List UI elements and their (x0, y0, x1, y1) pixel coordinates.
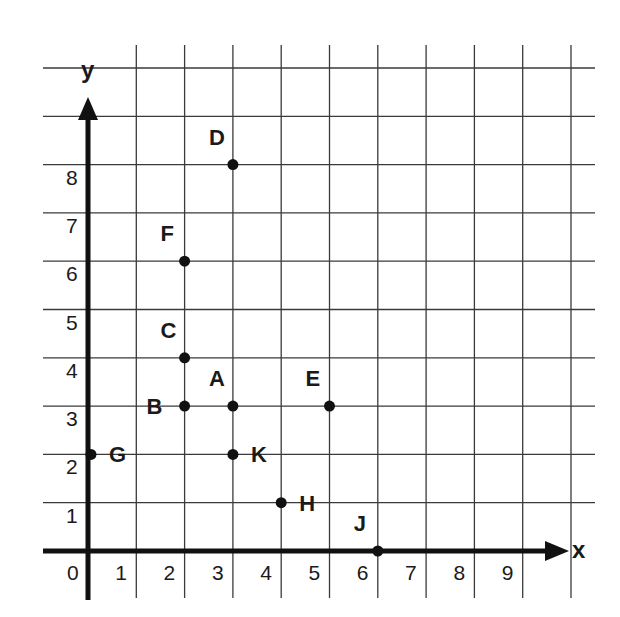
plotted-points: ABCDEFGHJK (86, 125, 384, 557)
y-tick-label: 4 (66, 359, 78, 382)
x-axis-arrow-icon (545, 541, 569, 561)
point-e-marker (324, 401, 335, 412)
grid-lines (43, 45, 595, 598)
x-tick-label: 1 (115, 561, 127, 584)
x-tick-label: 4 (260, 561, 272, 584)
point-f-label: F (161, 221, 174, 246)
point-g-marker (86, 449, 97, 460)
point-f-marker (179, 256, 190, 267)
y-tick-label: 6 (66, 262, 78, 285)
tick-labels: 012345678912345678 (66, 166, 513, 584)
x-tick-label: 5 (309, 561, 321, 584)
point-e-label: E (306, 366, 321, 391)
y-axis-label: y (81, 56, 95, 83)
point-h-label: H (299, 491, 315, 516)
point-a-marker (227, 401, 238, 412)
point-c-marker (179, 352, 190, 363)
x-tick-label: 3 (212, 561, 224, 584)
point-j-label: J (354, 511, 366, 536)
x-tick-label: 8 (453, 561, 465, 584)
point-b-label: B (147, 394, 163, 419)
y-axis-arrow-icon (78, 97, 98, 120)
x-tick-label: 9 (502, 561, 514, 584)
point-k-label: K (251, 442, 267, 467)
x-axis-label: x (572, 536, 586, 563)
y-tick-label: 7 (66, 214, 78, 237)
y-tick-label: 3 (66, 407, 78, 430)
y-tick-label: 1 (66, 504, 78, 527)
point-j-marker (372, 546, 383, 557)
point-d-label: D (209, 125, 225, 150)
y-tick-label: 5 (66, 311, 78, 334)
x-tick-label: 0 (67, 561, 79, 584)
point-h-marker (276, 497, 287, 508)
coordinate-grid: xy 012345678912345678 ABCDEFGHJK (0, 0, 620, 617)
point-b-marker (179, 401, 190, 412)
x-tick-label: 7 (405, 561, 417, 584)
y-tick-label: 8 (66, 166, 78, 189)
axes: xy (43, 56, 586, 600)
point-g-label: G (109, 442, 126, 467)
point-a-label: A (209, 366, 225, 391)
x-tick-label: 6 (357, 561, 369, 584)
point-c-label: C (161, 318, 177, 343)
point-k-marker (227, 449, 238, 460)
point-d-marker (227, 159, 238, 170)
y-tick-label: 2 (66, 455, 78, 478)
x-tick-label: 2 (164, 561, 176, 584)
